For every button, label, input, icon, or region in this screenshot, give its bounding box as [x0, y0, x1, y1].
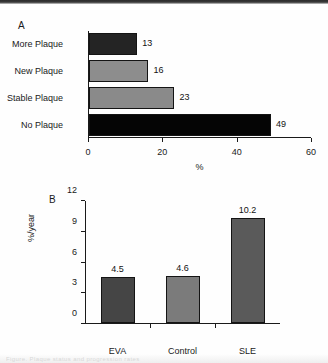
panel-b-y-tick-label: 9 — [59, 216, 77, 226]
panel-a-x-tick-label: 20 — [150, 147, 174, 157]
panel-b-bar — [231, 218, 265, 323]
panel-b-bar — [101, 277, 135, 323]
panel-b-y-tick-label: 12 — [59, 185, 77, 195]
panel-a-category-label: New Plaque — [14, 66, 63, 76]
panel-b-y-tick-label: 3 — [59, 277, 77, 287]
panel-b-y-tick-label: 6 — [59, 247, 77, 257]
panel-a-x-tick-label: 40 — [225, 147, 249, 157]
panel-a-category-label: Stable Plaque — [7, 93, 63, 103]
panel-a-bar-value-label: 16 — [153, 65, 163, 75]
panel-a-category-label: No Plaque — [21, 120, 63, 130]
panel-a-x-tick — [162, 138, 163, 142]
panel-b-y-tick — [81, 200, 85, 201]
panel-b-bar — [166, 276, 200, 323]
panel-b-plot-area: 0369124.5EVA4.6Control10.2SLE — [85, 201, 280, 324]
panel-b-x-tick — [150, 324, 151, 328]
panel-a-x-tick — [237, 138, 238, 142]
panel-a-bar — [89, 114, 271, 136]
panel-a-bar — [89, 87, 174, 109]
panel-b-y-tick — [81, 292, 85, 293]
panel-a-category-label: More Plaque — [12, 39, 63, 49]
caption-ghost: Figure. Plaque status and progression ra… — [6, 356, 322, 362]
panel-a-bar-row: 16 — [89, 60, 312, 82]
panel-a-x-axis-title: % — [88, 162, 311, 172]
panel-a-x-axis — [88, 137, 311, 138]
panel-b-y-tick — [81, 323, 85, 324]
panel-a-bar-row: 13 — [89, 33, 312, 55]
panel-b-label: B — [49, 194, 56, 205]
panel-b-bar-value-label: 4.6 — [163, 263, 203, 273]
panel-b-x-tick — [215, 324, 216, 328]
panel-a-x-tick-label: 60 — [299, 147, 323, 157]
panel-b-bar-value-label: 10.2 — [228, 205, 268, 215]
panel-a-bar-value-label: 49 — [276, 119, 286, 129]
panel-b-x-axis — [85, 323, 280, 324]
panel-a-bar — [89, 33, 137, 55]
panel-a-x-tick — [88, 138, 89, 142]
panel-a-bar-value-label: 13 — [142, 38, 152, 48]
panel-b-y-axis-title: %/year — [26, 214, 36, 242]
panel-b-progression-rate: B %/year 0369124.5EVA4.6Control10.2SLE — [0, 186, 328, 363]
panel-b-y-tick — [81, 262, 85, 263]
panel-a-bar-value-label: 23 — [179, 92, 189, 102]
panel-a-label: A — [18, 20, 25, 31]
panel-a-bar-row: 23 — [89, 87, 312, 109]
panel-a-x-tick — [311, 138, 312, 142]
panel-a-plaque-distribution: A 020406013More Plaque16New Plaque23Stab… — [0, 8, 328, 178]
panel-a-bar — [89, 60, 148, 82]
panel-b-y-tick-label: 0 — [59, 308, 77, 318]
scan-artifact-top — [0, 0, 328, 4]
panel-b-y-axis — [85, 201, 86, 324]
panel-b-y-tick — [81, 231, 85, 232]
panel-a-x-tick-label: 0 — [76, 147, 100, 157]
figure-root: A 020406013More Plaque16New Plaque23Stab… — [0, 0, 328, 363]
panel-b-bar-value-label: 4.5 — [98, 264, 138, 274]
panel-a-bar-row: 49 — [89, 114, 312, 136]
panel-a-plot-area: 020406013More Plaque16New Plaque23Stable… — [88, 31, 311, 138]
